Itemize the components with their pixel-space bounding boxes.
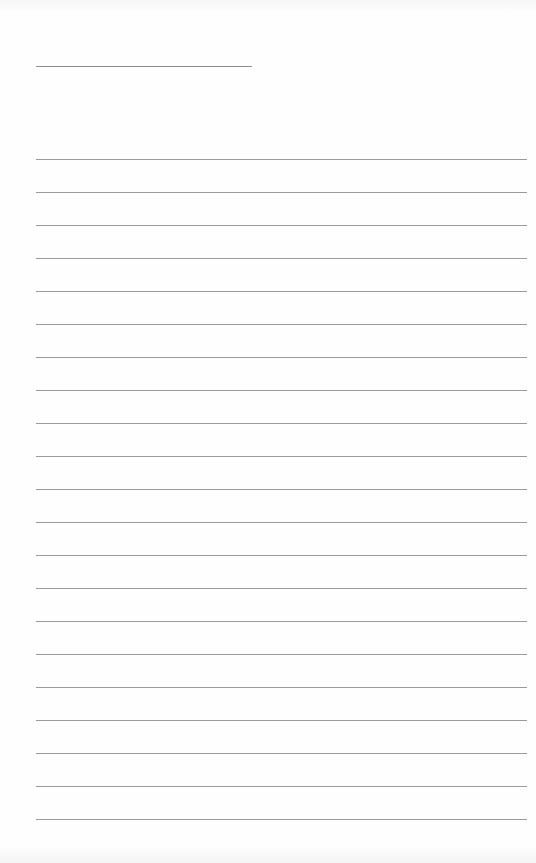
ruled-line <box>36 522 527 523</box>
ruled-line <box>36 786 527 787</box>
ruled-line <box>36 819 527 820</box>
ruled-line <box>36 357 527 358</box>
ruled-line <box>36 555 527 556</box>
ruled-line <box>36 456 527 457</box>
ruled-line <box>36 291 527 292</box>
ruled-line <box>36 192 527 193</box>
ruled-line <box>36 621 527 622</box>
ruled-line <box>36 654 527 655</box>
ruled-line <box>36 687 527 688</box>
title-write-line <box>36 66 252 67</box>
ruled-line <box>36 324 527 325</box>
ruled-line <box>36 489 527 490</box>
lined-paper-page <box>0 0 536 863</box>
ruled-line <box>36 159 527 160</box>
ruled-line <box>36 258 527 259</box>
ruled-line <box>36 423 527 424</box>
ruled-line <box>36 225 527 226</box>
ruled-line <box>36 720 527 721</box>
ruled-line <box>36 753 527 754</box>
ruled-line <box>36 390 527 391</box>
ruled-line <box>36 588 527 589</box>
